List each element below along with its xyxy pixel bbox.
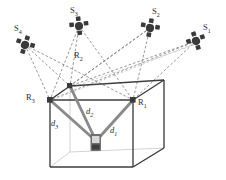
label-s1: S1 bbox=[203, 23, 211, 34]
label-r3: R3 bbox=[26, 93, 35, 104]
figure-container: S4 S3 S2 S1 R2 R3 R1 d2 d3 d1 bbox=[0, 0, 226, 180]
receiver-marker-r2 bbox=[67, 83, 72, 88]
label-d3: d3 bbox=[51, 119, 58, 130]
label-s2: S2 bbox=[152, 7, 160, 18]
receiver-marker-r1 bbox=[130, 97, 136, 103]
device-keypad bbox=[92, 145, 100, 150]
ray-s1-r2 bbox=[70, 41, 196, 86]
label-s3: S3 bbox=[70, 6, 78, 17]
label-r2: R2 bbox=[74, 51, 83, 62]
ray-s3-r1 bbox=[79, 26, 133, 100]
mobile-device bbox=[91, 134, 102, 151]
label-d2: d2 bbox=[86, 107, 93, 118]
device-screen bbox=[92, 136, 100, 143]
label-s4: S4 bbox=[14, 24, 22, 35]
ray-s3-r3 bbox=[50, 26, 79, 100]
propagation-rays-layer bbox=[25, 26, 196, 100]
receiver-marker-r3 bbox=[47, 97, 53, 103]
loudspeaker-s3 bbox=[69, 15, 90, 35]
label-d1: d1 bbox=[110, 126, 117, 137]
loudspeaker-s2 bbox=[139, 17, 161, 39]
box-edge-back-bottom-to-front-left bbox=[50, 152, 70, 167]
box-edge-bottom-right bbox=[133, 148, 164, 167]
diagram-canvas bbox=[0, 0, 226, 180]
box-edge-back-bottom-left-right bbox=[70, 148, 164, 152]
label-r1: R1 bbox=[138, 98, 147, 109]
ray-s2-r1 bbox=[133, 28, 150, 100]
